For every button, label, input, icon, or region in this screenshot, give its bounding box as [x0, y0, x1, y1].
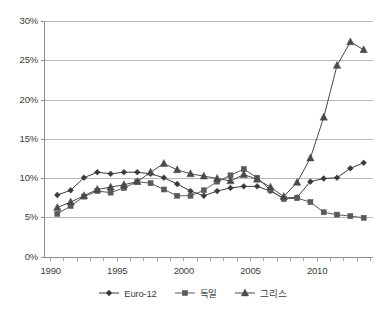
data-point-marker: [201, 188, 206, 193]
y-axis-tick-label: 10%: [20, 172, 38, 183]
data-point-marker: [67, 198, 74, 205]
data-point-marker: [148, 181, 153, 186]
x-axis-tick-label: 2010: [297, 265, 337, 276]
data-point-marker: [295, 196, 300, 201]
data-point-marker: [161, 175, 167, 181]
data-point-marker: [55, 211, 60, 216]
legend-label: 그리스: [260, 286, 286, 300]
data-point-marker: [347, 38, 354, 45]
y-axis-tick-label: 15%: [20, 133, 38, 144]
data-point-marker: [175, 193, 180, 198]
data-point-marker: [134, 169, 140, 175]
data-point-marker: [307, 154, 314, 161]
data-point-marker: [174, 166, 181, 173]
legend-marker-icon: [174, 287, 196, 299]
data-point-marker: [361, 160, 367, 166]
x-axis-tick-label: 2005: [230, 265, 270, 276]
data-point-marker: [241, 183, 247, 189]
data-point-marker: [348, 214, 353, 219]
series-line: [57, 163, 363, 198]
data-point-marker: [94, 169, 100, 175]
data-point-marker: [361, 215, 366, 220]
data-point-marker: [308, 200, 313, 205]
data-point-marker: [160, 160, 167, 167]
data-point-marker: [321, 176, 327, 182]
data-point-marker: [321, 210, 326, 215]
legend-entry: 독일: [174, 286, 218, 300]
x-axis-tick-label: 2000: [164, 265, 204, 276]
data-point-marker: [254, 183, 260, 189]
data-point-marker: [214, 188, 220, 194]
data-point-marker: [293, 178, 300, 185]
data-point-marker: [267, 183, 274, 190]
legend-entry: 그리스: [234, 286, 286, 300]
data-point-marker: [147, 168, 154, 175]
data-point-marker: [121, 169, 127, 175]
data-point-marker: [228, 185, 234, 191]
data-series: [54, 160, 366, 201]
data-point-marker: [161, 187, 166, 192]
data-point-marker: [174, 181, 180, 187]
data-point-marker: [108, 171, 114, 177]
data-point-marker: [333, 61, 340, 68]
data-point-marker: [360, 46, 367, 53]
data-point-marker: [54, 192, 60, 198]
data-point-marker: [335, 212, 340, 217]
legend-label: Euro-12: [124, 288, 156, 299]
data-point-marker: [320, 113, 327, 120]
x-axis-tick-label: 1990: [31, 265, 71, 276]
y-axis-tick-label: 30%: [20, 15, 38, 26]
y-axis-tick-label: 25%: [20, 54, 38, 65]
data-series: [54, 38, 368, 211]
legend-marker-icon: [98, 287, 120, 299]
data-point-marker: [201, 193, 207, 199]
data-point-marker: [188, 193, 193, 198]
legend-entry: Euro-12: [98, 287, 156, 299]
data-point-marker: [108, 190, 113, 195]
data-series-group: [54, 38, 368, 220]
series-line: [57, 42, 363, 208]
y-axis-tick-label: 5%: [25, 211, 38, 222]
chart-legend: Euro-12독일그리스: [0, 286, 385, 300]
chart-container: 0%5%10%15%20%25%30% 19901995200020052010…: [0, 0, 385, 318]
legend-marker-icon: [234, 287, 256, 299]
x-axis-ticks: [51, 257, 371, 261]
y-axis-tick-label: 0%: [25, 251, 38, 262]
legend-label: 독일: [200, 286, 218, 300]
y-axis-tick-label: 20%: [20, 94, 38, 105]
x-axis-tick-label: 1995: [97, 265, 137, 276]
